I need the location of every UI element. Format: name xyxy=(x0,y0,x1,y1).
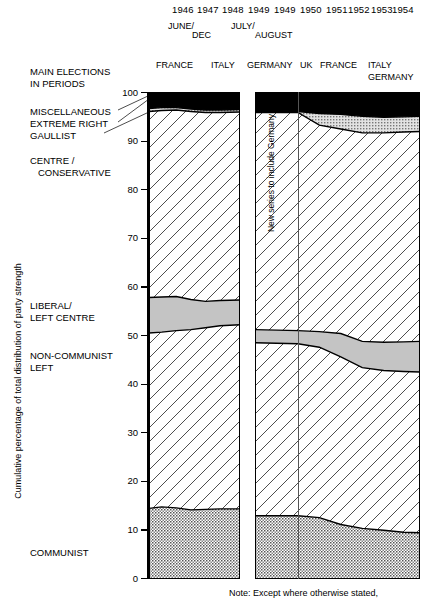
y-axis-tick xyxy=(141,189,148,190)
category-label-liberal-left-centre: LIBERAL/ LEFT CENTRE xyxy=(30,300,95,323)
year-label: 1953 xyxy=(371,4,393,15)
y-axis-tick-label: 50 xyxy=(104,330,138,341)
y-axis-tick xyxy=(141,238,148,239)
y-axis-title: Cumulative percentage of total distribut… xyxy=(13,211,23,551)
year-label: 1946 xyxy=(172,4,194,15)
year-label: 1950 xyxy=(300,4,322,15)
y-axis-tick xyxy=(141,529,148,530)
y-axis-tick xyxy=(141,432,148,433)
year-label: 1949 xyxy=(248,4,270,15)
period-bottom: DEC xyxy=(192,30,211,40)
year-label: 1947 xyxy=(197,4,219,15)
y-axis-tick-label: 10 xyxy=(104,524,138,535)
category-label-centre-conservative: CENTRE / CONSERVATIVE xyxy=(30,155,111,178)
y-axis-tick-label: 70 xyxy=(104,232,138,243)
y-axis-tick-label: 90 xyxy=(104,135,138,146)
year-label-row: 1946194719481949194919501951195219531954 xyxy=(0,4,423,20)
y-axis-tick-label: 30 xyxy=(104,427,138,438)
panel-divider-line xyxy=(298,92,299,579)
y-axis-tick xyxy=(141,384,148,385)
band-centre-conservative xyxy=(255,112,420,342)
year-label: 1954 xyxy=(392,4,414,15)
y-axis-tick xyxy=(141,92,148,93)
period-top: JULY xyxy=(231,21,252,31)
y-axis-tick-label: 100 xyxy=(104,87,138,98)
category-label-communist: COMMUNIST xyxy=(30,547,89,559)
year-label: 1948 xyxy=(222,4,244,15)
band-non-communist-left xyxy=(149,325,240,510)
band-centre-conservative xyxy=(149,110,240,301)
period-label: JULY/AUGUST xyxy=(231,21,255,31)
category-label-non-communist-left: NON-COMMUNIST LEFT xyxy=(30,350,113,373)
category-label-gaullist: GAULLIST xyxy=(30,130,76,142)
year-label: 1949 xyxy=(274,4,296,15)
y-axis-tick-label: 40 xyxy=(104,378,138,389)
year-label: 1952 xyxy=(348,4,370,15)
y-axis-tick xyxy=(141,578,148,579)
y-axis-tick xyxy=(141,481,148,482)
period-label-row: JUNE/DECJULY/AUGUST xyxy=(0,21,423,43)
band-communist xyxy=(149,507,240,579)
main-elections-title: MAIN ELECTIONS IN PERIODS xyxy=(30,66,110,89)
chart-panel-left xyxy=(149,92,240,579)
y-axis-tick-label: 60 xyxy=(104,281,138,292)
y-axis-tick xyxy=(141,286,148,287)
period-top: JUNE xyxy=(168,21,192,31)
y-axis-tick-label: 0 xyxy=(104,573,138,584)
period-bottom: AUGUST xyxy=(255,30,293,40)
y-axis-tick xyxy=(141,141,148,142)
country-label: ITALY xyxy=(368,60,392,70)
country-label: FRANCE xyxy=(156,60,193,70)
country-label: GERMANY xyxy=(368,72,414,82)
y-axis-tick-label: 80 xyxy=(104,184,138,195)
category-label-extreme-right: EXTREME RIGHT xyxy=(30,118,108,130)
year-label: 1951 xyxy=(326,4,348,15)
country-label: GERMANY xyxy=(247,60,293,70)
y-axis-tick-label: 20 xyxy=(104,475,138,486)
chart-panel-right xyxy=(255,92,420,579)
category-label-miscellaneous: MISCELLANEOUS xyxy=(30,106,111,118)
period-label: JUNE/DEC xyxy=(168,21,194,31)
new-series-annotation: New series to include Germany xyxy=(266,108,276,238)
footer-note: Note: Except where otherwise stated, xyxy=(229,588,378,598)
country-label: ITALY xyxy=(211,60,235,70)
y-axis-tick xyxy=(141,335,148,336)
country-label: FRANCE xyxy=(320,60,357,70)
country-label: UK xyxy=(300,60,313,70)
